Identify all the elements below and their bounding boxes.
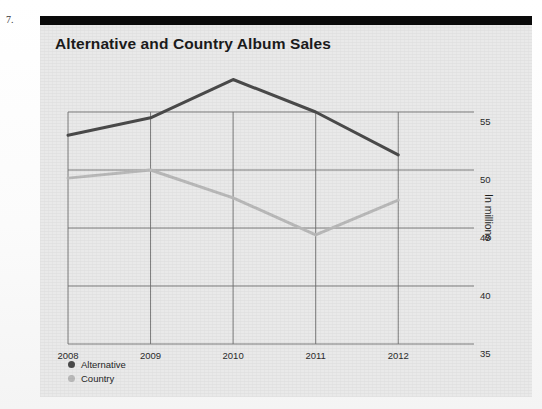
x-axis-tick-label: 2011 (296, 350, 336, 361)
x-axis-tick-label: 2009 (131, 350, 171, 361)
gridlines (68, 112, 474, 344)
x-axis-tick-label: 2012 (378, 350, 418, 361)
legend-marker-icon (68, 361, 75, 368)
x-axis-tick-label: 2010 (213, 350, 253, 361)
y-axis-title: In millions (483, 194, 495, 241)
legend-marker-icon (68, 375, 75, 382)
chart-legend: AlternativeCountry (68, 357, 126, 385)
question-number: 7. (6, 14, 14, 25)
y-axis-tick-label: 35 (480, 348, 491, 359)
legend-item: Alternative (68, 357, 126, 371)
chart-panel: Alternative and Country Album Sales 3540… (40, 16, 532, 397)
y-axis-tick-label: 55 (480, 116, 491, 127)
line-chart-plot (40, 16, 532, 397)
legend-item-label: Country (81, 373, 114, 384)
y-axis-tick-label: 40 (480, 290, 491, 301)
y-axis-tick-label: 50 (480, 174, 491, 185)
legend-item: Country (68, 371, 126, 385)
legend-item-label: Alternative (81, 359, 126, 370)
